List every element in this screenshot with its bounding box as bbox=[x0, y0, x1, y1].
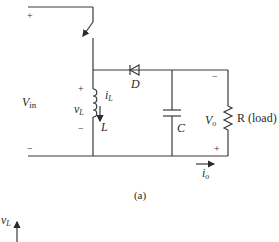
buck-boost-circuit-diagram: D + − vL iL L C − + Vo R (load) + − Vin … bbox=[0, 0, 279, 242]
inductor-voltage-label: vL bbox=[74, 102, 84, 117]
load-label: R (load) bbox=[237, 111, 277, 125]
inductor-minus: − bbox=[78, 123, 84, 134]
source-plus: + bbox=[27, 10, 33, 21]
inductor-current-label: iL bbox=[105, 88, 113, 103]
waveform-axis-label: vL bbox=[1, 213, 11, 228]
output-voltage-label: Vo bbox=[205, 113, 216, 128]
output-current-label: io bbox=[202, 166, 209, 181]
capacitor-label: C bbox=[177, 121, 186, 135]
diode-label: D bbox=[130, 77, 140, 91]
load-resistor-zigzag bbox=[224, 106, 232, 130]
inductor-coil bbox=[93, 89, 97, 117]
load-minus: − bbox=[212, 71, 218, 82]
source-minus: − bbox=[27, 143, 33, 154]
inductor-plus: + bbox=[78, 83, 84, 94]
inductor-label: L bbox=[100, 120, 108, 134]
switch bbox=[83, 7, 93, 70]
source-voltage-label: Vin bbox=[22, 95, 37, 110]
figure-caption: (a) bbox=[134, 189, 147, 202]
load-plus: + bbox=[214, 143, 220, 154]
